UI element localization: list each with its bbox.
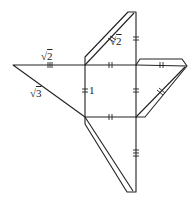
left-triangle [13, 65, 85, 117]
right-flap-top-inner [136, 65, 187, 66]
label-hypotenuse-left: √3 [30, 88, 42, 99]
label-square-side: 1 [89, 85, 95, 96]
bottom-flap-inner-edge [85, 117, 133, 191]
label-top-edge-left: √2 [41, 51, 53, 62]
right-flap [136, 59, 187, 117]
label-top-flap-edge: √2 [110, 36, 122, 47]
pyramid-net-diagram [0, 0, 194, 202]
tick-marks [48, 36, 165, 156]
right-flap-diagonal-inner [136, 67, 185, 117]
